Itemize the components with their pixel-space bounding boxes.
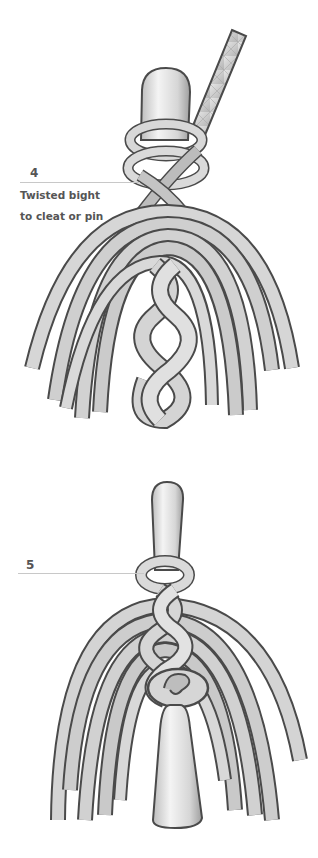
rope-standing-end — [192, 30, 246, 135]
step-5-illustration — [58, 482, 300, 828]
caption-line-1: Twisted bight — [20, 185, 103, 206]
step-caption: Twisted bight to cleat or pin — [20, 185, 103, 227]
knot-illustration — [0, 0, 318, 858]
leader-line — [18, 573, 144, 574]
step-number: 4 — [30, 166, 38, 180]
pin-bottom-icon — [153, 705, 202, 828]
step-number: 5 — [26, 558, 34, 572]
caption-line-2: to cleat or pin — [20, 206, 103, 227]
leader-line — [20, 182, 140, 183]
